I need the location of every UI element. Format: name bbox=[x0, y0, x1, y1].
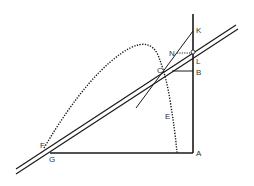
label-c: C bbox=[157, 66, 163, 75]
point-marker bbox=[191, 50, 195, 54]
label-n: N bbox=[169, 49, 175, 58]
diagram-canvas: K N L C B E A G F bbox=[0, 0, 254, 186]
label-b: B bbox=[196, 68, 201, 77]
label-k: K bbox=[196, 26, 202, 35]
label-f: F bbox=[40, 141, 45, 150]
label-a: A bbox=[196, 149, 202, 158]
geometry-diagram: K N L C B E A G F bbox=[0, 0, 254, 186]
tangent-line bbox=[136, 31, 193, 108]
trajectory-curve bbox=[44, 44, 177, 153]
label-g: G bbox=[49, 155, 55, 164]
label-l: L bbox=[196, 57, 201, 66]
label-e: E bbox=[165, 112, 170, 121]
double-line bbox=[16, 25, 238, 174]
